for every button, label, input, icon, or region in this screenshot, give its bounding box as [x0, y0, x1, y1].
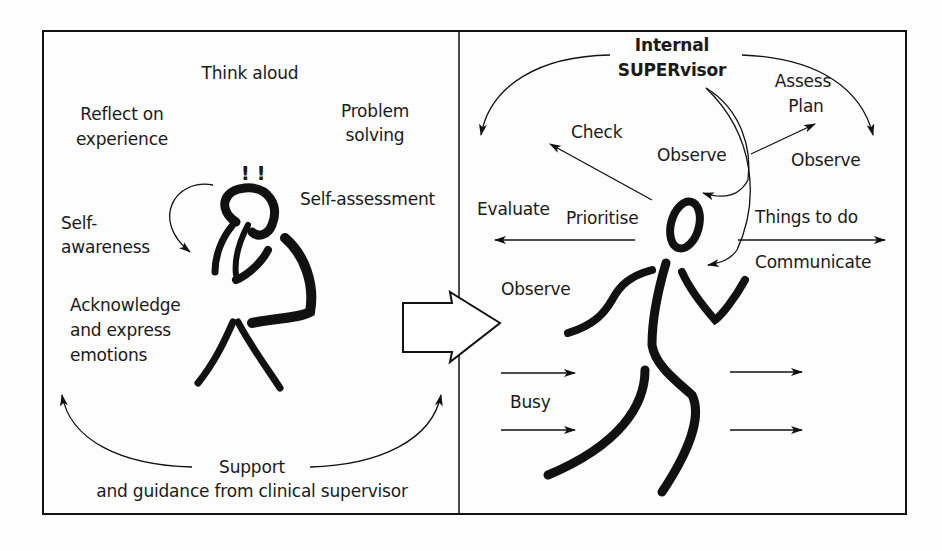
label-self-awareness-line1: Self- [61, 212, 97, 234]
label-reflect-line2: experience [76, 128, 168, 150]
label-problem-line1: Problem [341, 100, 409, 122]
running-figure-icon [548, 198, 745, 492]
label-think-aloud: Think aloud [202, 62, 299, 84]
label-observe-center: Observe [657, 144, 727, 166]
label-reflect-line1: Reflect on [80, 103, 163, 125]
label-self-awareness-line2: awareness [61, 236, 150, 258]
label-self-assessment: Self-assessment [300, 188, 435, 210]
support-right-arrow [310, 395, 441, 467]
label-observe-right: Observe [791, 149, 861, 171]
check-arrow [550, 144, 652, 200]
label-acknowledge-line2: and express [70, 319, 171, 341]
label-check: Check [571, 121, 622, 143]
label-busy: Busy [510, 391, 551, 413]
label-observe-left: Observe [501, 278, 571, 300]
label-support-line2: and guidance from clinical supervisor [96, 480, 408, 502]
label-acknowledge-line1: Acknowledge [70, 294, 181, 316]
label-plan: Plan [788, 95, 823, 117]
transition-block-arrow-icon [403, 292, 500, 362]
support-left-arrow [62, 395, 192, 467]
self-awareness-curve-arrow [170, 184, 213, 252]
label-acknowledge-line3: emotions [70, 344, 147, 366]
label-prioritise: Prioritise [566, 207, 638, 229]
label-assess: Assess [775, 70, 831, 92]
supervision-diagram: Think aloud Reflect on experience Proble… [0, 0, 942, 551]
label-internal: Internal [635, 34, 709, 56]
label-support-line1: Support [219, 456, 285, 478]
thinking-figure-icon [198, 188, 311, 388]
label-problem-line2: solving [346, 124, 405, 146]
label-exclamation: ! ! [241, 162, 266, 184]
label-things-to-do: Things to do [755, 206, 858, 228]
communicate-curve-arrow [706, 88, 750, 265]
label-supervisor: SUPERvisor [618, 59, 726, 81]
label-evaluate: Evaluate [477, 198, 550, 220]
label-communicate: Communicate [755, 251, 871, 273]
